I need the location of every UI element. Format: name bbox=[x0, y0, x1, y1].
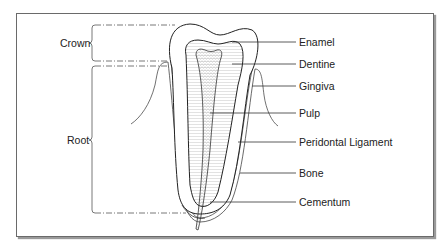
crown-label: Crown bbox=[60, 37, 90, 49]
pulp-label: Pulp bbox=[299, 107, 320, 119]
root-bracket bbox=[89, 66, 186, 213]
enamel-label: Enamel bbox=[299, 36, 335, 48]
dentine-label: Dentine bbox=[299, 58, 335, 70]
gingiva-label: Gingiva bbox=[299, 80, 335, 92]
root-label: Root bbox=[67, 134, 89, 146]
crown-bracket bbox=[89, 25, 175, 61]
cementum-label: Cementum bbox=[299, 196, 350, 208]
periodontal-ligament-label: Peridontal Ligament bbox=[299, 136, 392, 148]
bone-label: Bone bbox=[299, 167, 324, 179]
